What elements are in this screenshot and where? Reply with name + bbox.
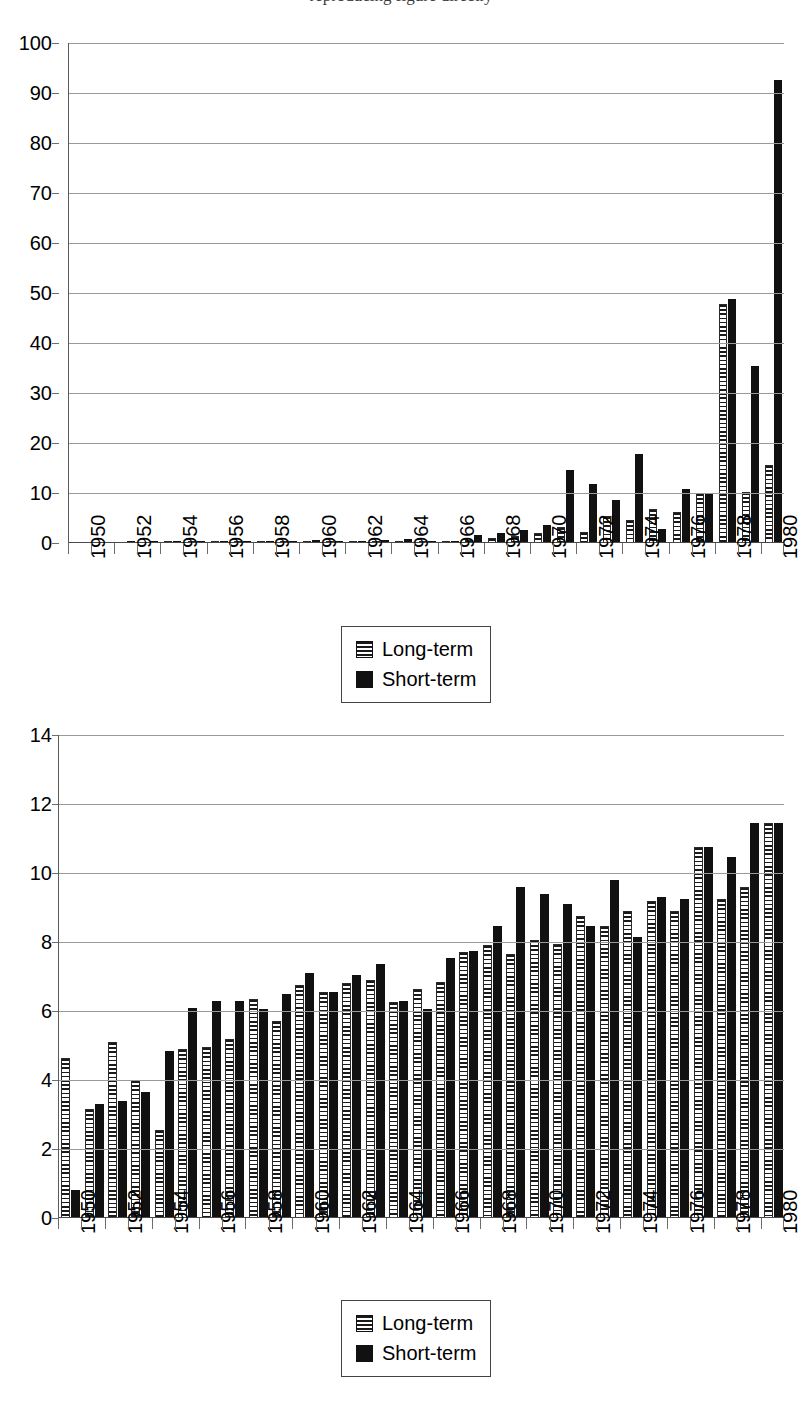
- bar-short-term: [446, 958, 455, 1218]
- bar-long-term: [717, 899, 726, 1218]
- bar-short-term: [680, 899, 689, 1218]
- x-tick-mark: [414, 543, 415, 554]
- y-tick-label: 10: [30, 483, 52, 503]
- bar-long-term: [202, 1047, 211, 1218]
- y-tick-label: 50: [30, 283, 52, 303]
- y-tick-label: 80: [30, 133, 52, 153]
- x-tick-mark: [409, 1218, 410, 1229]
- x-tick-mark: [391, 543, 392, 554]
- x-tick-mark: [207, 543, 208, 554]
- x-tick-mark: [292, 1218, 293, 1229]
- gridline: [59, 1080, 784, 1081]
- gridline: [59, 942, 784, 943]
- x-tick-mark: [645, 543, 646, 554]
- x-tick-mark: [160, 543, 161, 554]
- x-tick-mark: [714, 1218, 715, 1229]
- gridline: [69, 493, 784, 494]
- y-tick-label: 100: [19, 33, 52, 53]
- x-tick-mark: [620, 1218, 621, 1229]
- x-tick-mark: [667, 1218, 668, 1229]
- bar-long-term: [694, 847, 703, 1218]
- x-tick-mark: [573, 1218, 574, 1229]
- y-tick-label: 60: [30, 233, 52, 253]
- legend-top: Long-term Short-term: [341, 626, 491, 703]
- x-tick-mark: [480, 1218, 481, 1229]
- plot-area-top: [68, 43, 784, 543]
- x-tick-mark: [530, 543, 531, 554]
- bar-short-term: [259, 1009, 268, 1218]
- x-tick-mark: [253, 543, 254, 554]
- x-tick-mark: [599, 543, 600, 554]
- x-tick-mark: [690, 1218, 691, 1229]
- x-tick-mark: [81, 1218, 82, 1229]
- legend-row-short-top: Short-term: [356, 664, 476, 694]
- y-tick-mark: [52, 293, 59, 294]
- bar-short-term: [235, 1001, 244, 1218]
- bar-short-term: [774, 80, 782, 544]
- gridline: [59, 873, 784, 874]
- gridline: [69, 143, 784, 144]
- x-tick-mark: [58, 1218, 59, 1229]
- bar-long-term: [155, 1130, 164, 1218]
- chart-bottom: 02468101214 1950195219541956195819601962…: [0, 700, 802, 1404]
- bar-short-term: [774, 823, 783, 1218]
- x-tick-mark: [175, 1218, 176, 1229]
- x-tick-mark: [345, 543, 346, 554]
- x-tick-mark: [622, 543, 623, 554]
- chart-top: 0102030405060708090100 19501952195419561…: [0, 0, 802, 700]
- y-axis-labels-bottom: 02468101214: [0, 735, 52, 1218]
- x-tick-mark: [526, 1218, 527, 1229]
- y-tick-mark: [52, 43, 59, 44]
- bars-bottom: [59, 735, 784, 1218]
- x-tick-mark: [105, 1218, 106, 1229]
- bar-short-term: [329, 992, 338, 1218]
- y-tick-label: 2: [41, 1139, 52, 1159]
- legend-row-long-bottom: Long-term: [356, 1308, 476, 1338]
- y-tick-label: 90: [30, 83, 52, 103]
- bar-long-term: [719, 304, 727, 543]
- legend-label-long: Long-term: [382, 1313, 473, 1333]
- bar-long-term: [673, 512, 681, 544]
- bar-short-term: [188, 1008, 197, 1218]
- x-tick-mark: [669, 543, 670, 554]
- bar-short-term: [704, 847, 713, 1218]
- y-tick-mark: [52, 243, 59, 244]
- y-tick-mark: [52, 393, 59, 394]
- bar-long-term: [740, 887, 749, 1218]
- bar-long-term: [436, 982, 445, 1218]
- y-tick-mark: [52, 493, 59, 494]
- x-tick-mark: [152, 1218, 153, 1229]
- x-tick-mark: [692, 543, 693, 554]
- bar-long-term: [459, 952, 468, 1218]
- bar-long-term: [249, 999, 258, 1218]
- bar-long-term: [576, 916, 585, 1218]
- bar-long-term: [506, 954, 515, 1218]
- y-tick-label: 70: [30, 183, 52, 203]
- x-tick-mark: [553, 543, 554, 554]
- y-tick-label: 0: [41, 533, 52, 553]
- bar-long-term: [272, 1021, 281, 1218]
- x-tick-mark: [269, 1218, 270, 1229]
- legend-row-short-bottom: Short-term: [356, 1338, 476, 1368]
- gridline: [59, 735, 784, 736]
- y-tick-mark: [52, 443, 59, 444]
- bar-short-term: [305, 973, 314, 1218]
- x-tick-mark: [761, 543, 762, 554]
- y-axis-labels-top: 0102030405060708090100: [0, 43, 52, 543]
- y-tick-mark: [52, 343, 59, 344]
- gridline: [69, 343, 784, 344]
- y-tick-mark: [52, 193, 59, 194]
- y-tick-label: 20: [30, 433, 52, 453]
- x-tick-mark: [738, 543, 739, 554]
- x-tick-mark: [386, 1218, 387, 1229]
- x-tick-mark: [316, 1218, 317, 1229]
- gridline: [69, 193, 784, 194]
- bar-long-term: [389, 1002, 398, 1218]
- x-tick-mark: [230, 543, 231, 554]
- x-tick-mark: [91, 543, 92, 554]
- gridline: [69, 43, 784, 44]
- x-tick-mark: [114, 543, 115, 554]
- bar-long-term: [342, 983, 351, 1218]
- y-tick-mark: [52, 543, 59, 544]
- bar-short-term: [376, 964, 385, 1218]
